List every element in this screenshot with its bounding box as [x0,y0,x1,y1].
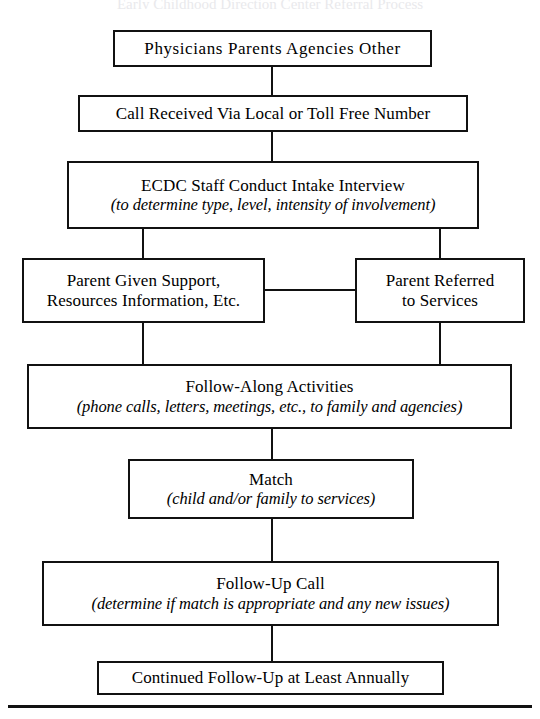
node-label-line1: Parent Given Support, [67,271,221,291]
connector-intake-to-parent-support [142,228,144,259]
connector-sources-to-call-received [271,66,273,96]
node-follow-along-activities: Follow-Along Activities (phone calls, le… [27,364,512,429]
node-label-line2: Resources Information, Etc. [47,291,240,311]
node-label-line1: Match [249,470,293,490]
connector-call-received-to-intake [271,131,273,162]
node-label-line2: (child and/or family to services) [167,489,375,508]
node-follow-up-call: Follow-Up Call (determine if match is ap… [42,561,499,626]
connector-follow-up-to-continued [271,625,273,662]
node-continued-follow-up: Continued Follow-Up at Least Annually [97,661,444,695]
connector-follow-along-to-match [271,428,273,460]
node-label-line2: (to determine type, level, intensity of … [111,195,436,214]
node-label-line1: Follow-Along Activities [185,377,353,397]
connector-parent-referred-to-follow-along [439,322,441,365]
node-label-line1: Parent Referred [386,271,495,291]
flowchart-canvas: Early Childhood Direction Center Referra… [0,0,540,719]
node-label-line1: Physicians Parents Agencies Other [144,39,400,59]
node-label-line2: to Services [402,291,478,311]
node-label-line1: Call Received Via Local or Toll Free Num… [116,104,430,124]
node-label-line1: ECDC Staff Conduct Intake Interview [141,176,405,196]
connector-match-to-follow-up [271,518,273,562]
node-referral-sources: Physicians Parents Agencies Other [113,30,432,67]
footer-divider [8,705,532,708]
node-label-line1: Continued Follow-Up at Least Annually [132,668,410,688]
connector-parent-support-to-parent-referred [264,289,356,291]
node-match: Match (child and/or family to services) [128,459,414,519]
node-parent-referred-to-services: Parent Referred to Services [355,258,525,323]
connector-parent-support-to-follow-along [142,322,144,365]
node-call-received: Call Received Via Local or Toll Free Num… [78,95,468,132]
node-label-line1: Follow-Up Call [216,574,325,594]
cropped-title: Early Childhood Direction Center Referra… [0,0,540,9]
node-label-line2: (determine if match is appropriate and a… [92,594,450,613]
node-label-line2: (phone calls, letters, meetings, etc., t… [77,397,463,416]
connector-intake-to-parent-referred [439,228,441,259]
node-intake-interview: ECDC Staff Conduct Intake Interview (to … [67,161,479,229]
node-parent-given-support: Parent Given Support, Resources Informat… [22,258,265,323]
